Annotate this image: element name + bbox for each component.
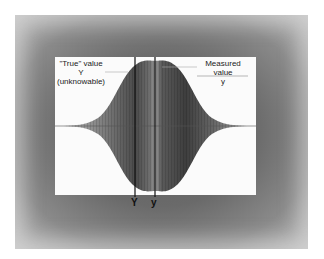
measured-value-symbol: y <box>196 77 250 86</box>
true-value-title: "True" value <box>57 59 105 68</box>
true-value-marker: Y <box>131 197 138 208</box>
true-value-label: "True" value Y (unknowable) <box>57 59 105 86</box>
bell-curve-diagram <box>0 0 324 259</box>
measured-value-marker: y <box>151 197 157 208</box>
measured-value-title: Measured value <box>196 59 250 77</box>
measured-value-label: Measured value y <box>196 59 250 86</box>
true-value-note: (unknowable) <box>57 77 105 86</box>
true-value-symbol: Y <box>57 68 105 77</box>
